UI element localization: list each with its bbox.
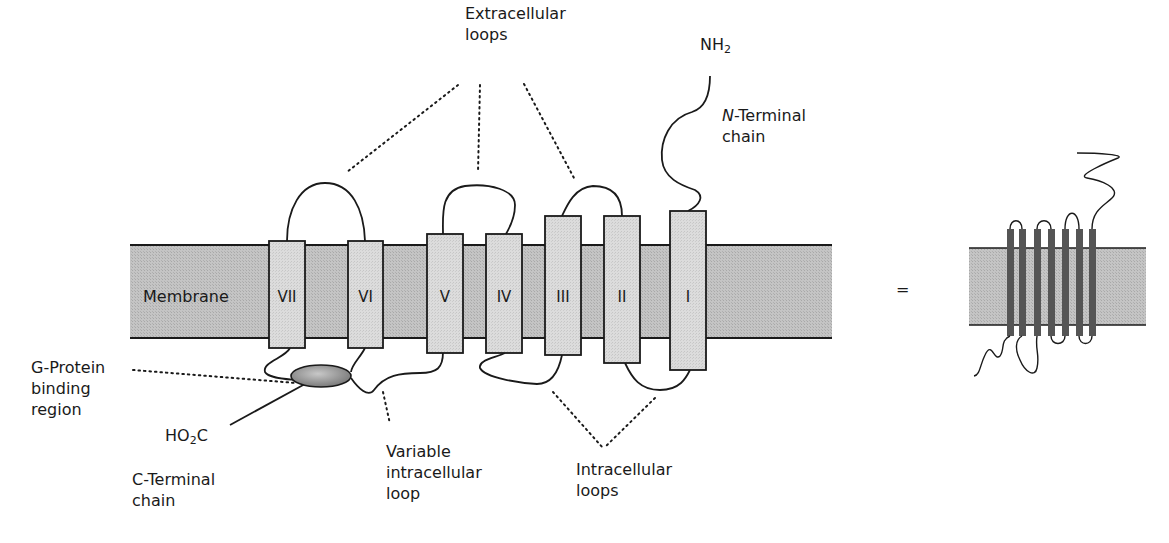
nh2-label: NH2: [700, 34, 731, 55]
ho2c-label: HO2C: [165, 425, 208, 446]
helix-label-i: I: [670, 288, 706, 306]
helix-label-iv: IV: [486, 288, 522, 306]
n-terminal-label: N-Terminal chain: [722, 105, 806, 147]
helix-label-v: V: [427, 288, 463, 306]
c-terminal-label: C-Terminal chain: [132, 469, 215, 511]
compact-schematic: [969, 153, 1146, 376]
helix-label-ii: II: [604, 288, 640, 306]
helix-label-vi: VI: [348, 288, 383, 306]
helix-iii: [545, 216, 581, 355]
n-terminal-chain: [662, 76, 710, 211]
intracellular-loops-label: Intracellular loops: [576, 459, 672, 501]
g-protein-label: G-Protein binding region: [31, 357, 105, 420]
membrane-label: Membrane: [143, 286, 229, 307]
extracellular-loops-label: Extracellular loops: [465, 3, 566, 45]
helix-label-iii: III: [545, 288, 581, 306]
membrane: [130, 245, 832, 338]
equals-sign: =: [896, 279, 909, 300]
g-protein-binding-region: [291, 365, 351, 387]
variable-loop-label: Variable intracellular loop: [386, 441, 482, 504]
helix-label-vii: VII: [269, 288, 305, 306]
c-terminal-chain: [230, 384, 305, 425]
